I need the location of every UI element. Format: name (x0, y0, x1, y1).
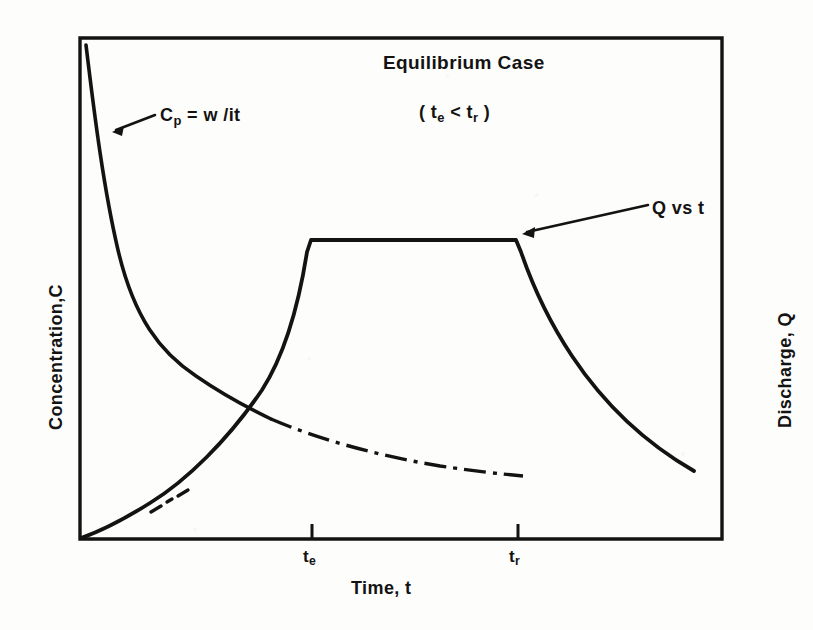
tr-subscript: r (515, 554, 520, 568)
y-axis-left-label: Concentration,C (46, 284, 67, 430)
x-axis-label: Time, t (351, 578, 411, 599)
concentration-label-leader (112, 115, 155, 136)
chart-title: Equilibrium Case (383, 52, 545, 74)
y-axis-right-label: Discharge, Q (775, 312, 796, 428)
x-tick-label-te: te (303, 547, 316, 568)
figure-page: Equilibrium Case ( te < tr ) Cp = w /it … (0, 0, 813, 630)
discharge-curve-label: Q vs t (652, 198, 704, 219)
concentration-curve-dashdot (271, 419, 523, 476)
concentration-curve-label: Cp = w /it (160, 105, 240, 128)
chart-subtitle: ( te < tr ) (419, 102, 490, 125)
x-axis-ticks (312, 524, 518, 539)
subtitle-mid: < t (445, 102, 473, 122)
chart-canvas (0, 0, 813, 630)
subtitle-sub-te: e (437, 110, 445, 125)
discharge-label-leader (522, 205, 648, 238)
cp-expression: = w /it (182, 105, 241, 125)
subtitle-open: ( t (419, 102, 437, 122)
cp-base: C (160, 105, 173, 125)
concentration-curve-solid (86, 45, 271, 419)
te-subscript: e (309, 554, 316, 568)
cp-subscript: p (173, 113, 181, 128)
subtitle-close: ) (478, 102, 490, 122)
x-tick-label-tr: tr (509, 547, 520, 568)
discharge-hydrograph-curve (81, 240, 694, 538)
